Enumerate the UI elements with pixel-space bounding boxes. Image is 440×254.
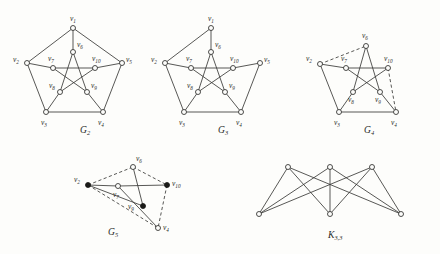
vertex-label-G4-v10: v10 xyxy=(384,54,393,64)
graph-caption-G4: G4 xyxy=(364,124,375,136)
edge-v4-v9 xyxy=(380,92,396,112)
vertex-G4-v9 xyxy=(378,90,383,95)
graph-G2: v1v2v3v4v5v6v7v8v9v10G2 xyxy=(13,14,132,136)
edge-v3-v8 xyxy=(46,92,60,112)
vertex-G3-v2 xyxy=(163,61,168,66)
vertex-label-G4-v9: v9 xyxy=(375,95,381,105)
edge-v4-v5 xyxy=(241,63,260,112)
edge-v2-v3 xyxy=(165,63,184,112)
vertex-G4-v8 xyxy=(351,90,356,95)
vertex-G3-v7 xyxy=(189,66,194,71)
vertex-G5-v4 xyxy=(156,226,161,231)
edge-v2-v7 xyxy=(320,64,346,68)
vertex-G2-v6 xyxy=(71,50,76,55)
graph-caption-G3: G3 xyxy=(218,124,228,136)
edge-u3-w1 xyxy=(259,167,372,214)
edge-v4-v5 xyxy=(103,63,122,112)
vertex-G3-v9 xyxy=(223,90,228,95)
vertex-label-G5-v2: v2 xyxy=(74,175,80,185)
edge-v4-v9 xyxy=(225,92,241,112)
edge-v5-v10 xyxy=(233,63,260,68)
graph-caption-G5: G5 xyxy=(108,226,118,238)
edge-u3-w3 xyxy=(372,167,401,214)
vertex-label-G2-v1: v1 xyxy=(70,14,76,24)
vertex-K33-u1 xyxy=(286,165,291,170)
graph-K33: K3,3 xyxy=(257,165,404,242)
vertex-G3-v5 xyxy=(258,61,263,66)
vertex-label-G3-v5: v5 xyxy=(264,55,270,65)
edge-v2-v7 xyxy=(27,63,53,68)
vertex-G4-v3 xyxy=(337,110,342,115)
vertex-G5-v6 xyxy=(131,165,136,170)
edge-v8-v10 xyxy=(60,68,95,92)
vertex-label-G4-v3: v3 xyxy=(334,118,340,128)
vertex-label-G3-v6: v6 xyxy=(215,40,221,50)
vertex-label-G3-v9: v9 xyxy=(229,81,235,91)
edge-v10-v4 xyxy=(158,185,167,228)
vertex-label-G5-v6: v6 xyxy=(136,154,142,164)
vertex-K33-w2 xyxy=(328,212,333,217)
vertex-label-G2-v6: v6 xyxy=(77,40,83,50)
edge-v10-v4 xyxy=(388,68,396,112)
vertex-K33-u2 xyxy=(328,165,333,170)
vertex-G2-v5 xyxy=(120,61,125,66)
vertex-label-G2-v7: v7 xyxy=(48,54,54,64)
vertex-G5-v10 xyxy=(165,183,170,188)
vertex-G3-v6 xyxy=(209,50,214,55)
vertex-G4-v10 xyxy=(386,66,391,71)
edge-v6-v10 xyxy=(133,167,167,185)
node-group: v2v3v4v6v7v8v9v10 xyxy=(306,31,399,128)
edge-v4-v9 xyxy=(87,92,103,112)
vertex-K33-w3 xyxy=(399,212,404,217)
edge-v7-v10 xyxy=(118,185,167,186)
vertex-G4-v4 xyxy=(394,110,399,115)
figure-canvas: v1v2v3v4v5v6v7v8v9v10G2v1v2v3v4v5v6v7v8v… xyxy=(0,0,440,254)
edge-v6-v8 xyxy=(60,52,73,92)
vertex-label-G3-v8: v8 xyxy=(187,81,193,91)
vertex-G2-v1 xyxy=(71,26,76,31)
edge-u1-w1 xyxy=(259,167,288,214)
vertex-label-G2-v10: v10 xyxy=(92,54,101,64)
edge-v7-v9 xyxy=(53,68,87,92)
edge-v9-v6 xyxy=(73,52,87,92)
vertex-label-G3-v3: v3 xyxy=(179,118,185,128)
vertex-label-G3-v2: v2 xyxy=(151,55,157,65)
vertex-label-G2-v3: v3 xyxy=(41,118,47,128)
vertex-G3-v1 xyxy=(209,26,214,31)
vertex-G5-v9 xyxy=(141,204,146,209)
edge-v8-v10 xyxy=(198,68,233,92)
vertex-G2-v9 xyxy=(85,90,90,95)
vertex-label-G5-v4: v4 xyxy=(163,223,169,233)
vertex-G3-v3 xyxy=(182,110,187,115)
vertex-G3-v4 xyxy=(239,110,244,115)
edge-v2-v6 xyxy=(88,167,133,185)
vertex-label-G5-v7: v7 xyxy=(113,190,119,200)
edge-v2-v3 xyxy=(320,64,339,112)
graph-figure-svg: v1v2v3v4v5v6v7v8v9v10G2v1v2v3v4v5v6v7v8v… xyxy=(0,0,440,254)
vertex-label-G2-v4: v4 xyxy=(98,118,104,128)
vertex-K33-w1 xyxy=(257,212,262,217)
vertex-G5-v2 xyxy=(86,183,91,188)
edge-v3-v8 xyxy=(184,92,198,112)
vertex-G2-v3 xyxy=(44,110,49,115)
edge-v8-v10 xyxy=(353,68,388,92)
vertex-G4-v7 xyxy=(344,66,349,71)
vertex-label-G4-v8: v8 xyxy=(348,95,354,105)
vertex-G2-v7 xyxy=(51,66,56,71)
edge-group xyxy=(88,167,167,228)
graph-G3: v1v2v3v4v5v6v7v8v9v10G3 xyxy=(151,14,270,136)
graph-caption-G2: G2 xyxy=(80,124,91,136)
vertex-G2-v4 xyxy=(101,110,106,115)
edge-v9-v6 xyxy=(211,52,225,92)
edge-v6-v8 xyxy=(353,46,366,92)
vertex-label-G4-v7: v7 xyxy=(341,54,347,64)
vertex-label-G2-v8: v8 xyxy=(49,81,55,91)
edge-v2-v3 xyxy=(27,63,46,112)
edge-group xyxy=(165,28,260,112)
edge-u1-w3 xyxy=(288,167,401,214)
edge-v5-v10 xyxy=(95,63,122,68)
vertex-label-G5-v9: v9 xyxy=(128,202,134,212)
edge-v7-v9 xyxy=(191,68,225,92)
vertex-G5-v7 xyxy=(116,184,121,189)
vertex-label-G2-v5: v5 xyxy=(126,55,132,65)
